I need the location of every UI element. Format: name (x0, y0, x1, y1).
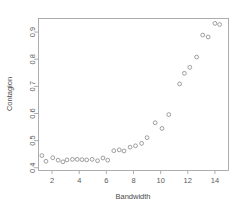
y-tick-label: 0.7 (28, 81, 37, 91)
data-point (134, 144, 138, 148)
data-point (117, 148, 121, 152)
y-tick-label: 0.5 (28, 135, 37, 145)
x-tick-label: 12 (184, 176, 192, 185)
data-point (112, 149, 116, 153)
data-points (40, 21, 222, 163)
y-axis-title: Contagion (5, 77, 14, 111)
data-point (40, 154, 44, 158)
data-point (167, 113, 171, 117)
data-point (195, 55, 199, 59)
data-point (90, 157, 94, 161)
data-point (206, 35, 210, 39)
plot-frame (39, 19, 229, 171)
data-point (128, 145, 132, 149)
data-point (101, 156, 105, 160)
data-point (178, 82, 182, 86)
data-point (56, 158, 60, 162)
data-point (61, 160, 65, 164)
data-point (201, 33, 205, 37)
data-point (44, 159, 48, 163)
y-tick-label: 0.8 (28, 54, 37, 64)
x-tick-label: 14 (211, 176, 219, 185)
y-tick-label: 0.6 (28, 108, 37, 118)
x-tick-label: 10 (156, 176, 164, 185)
data-point (160, 127, 164, 131)
x-axis-tick-labels: 2468101214 (50, 176, 219, 185)
plot-box (39, 19, 229, 171)
data-point (96, 159, 100, 163)
y-axis-ticks (35, 32, 39, 168)
data-point (106, 158, 110, 162)
y-axis-tick-labels: 0.40.50.60.70.80.9 (28, 27, 37, 173)
y-tick-label: 0.4 (28, 163, 37, 173)
data-point (71, 157, 75, 161)
x-tick-label: 2 (50, 176, 54, 185)
data-point (80, 158, 84, 162)
data-point (188, 65, 192, 69)
scatter-plot: 2468101214 0.40.50.60.70.80.9 Bandwidth … (0, 0, 244, 209)
data-point (218, 23, 222, 27)
data-point (51, 156, 55, 160)
data-point (213, 21, 217, 25)
x-tick-label: 6 (104, 176, 108, 185)
x-tick-label: 4 (77, 176, 81, 185)
chart-container: 2468101214 0.40.50.60.70.80.9 Bandwidth … (0, 0, 244, 209)
data-point (75, 157, 79, 161)
y-tick-label: 0.9 (28, 27, 37, 37)
data-point (85, 158, 89, 162)
x-tick-label: 8 (131, 176, 135, 185)
data-point (182, 71, 186, 75)
x-axis-ticks (52, 171, 215, 175)
data-point (122, 149, 126, 153)
data-point (65, 158, 69, 162)
data-point (140, 141, 144, 145)
x-axis-title: Bandwidth (115, 192, 150, 201)
data-point (145, 136, 149, 140)
data-point (153, 121, 157, 125)
